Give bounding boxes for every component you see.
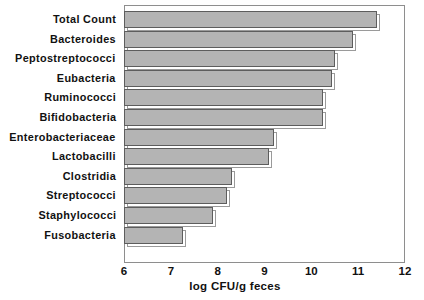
category-axis-labels: Total CountBacteroidesPeptostreptococciE…	[0, 0, 120, 262]
bar-body	[124, 31, 353, 48]
x-tick-label: 9	[261, 264, 267, 278]
bar-body	[124, 89, 323, 106]
category-label: Streptococci	[46, 189, 116, 201]
bar-body	[124, 168, 232, 185]
bar-body	[124, 187, 227, 204]
bar-body	[124, 227, 183, 244]
bar-body	[124, 11, 377, 28]
category-label: Lactobacilli	[52, 150, 116, 162]
bar-body	[124, 129, 274, 146]
category-label: Enterobacteriaceae	[10, 131, 116, 143]
x-axis-title: log CFU/g feces	[0, 280, 424, 292]
x-tick-label: 6	[121, 264, 127, 278]
x-tick-label: 8	[214, 264, 220, 278]
bar-body	[124, 50, 335, 67]
category-label: Staphylococci	[38, 209, 116, 221]
x-tick-label: 10	[305, 264, 318, 278]
x-tick-label: 12	[399, 264, 412, 278]
bar-chart: Total CountBacteroidesPeptostreptococciE…	[0, 0, 424, 300]
x-tick-label: 7	[168, 264, 174, 278]
category-label: Bacteroides	[50, 33, 116, 45]
bar-body	[124, 207, 213, 224]
bar-body	[124, 70, 332, 87]
category-label: Clostridia	[63, 170, 116, 182]
bar-body	[124, 148, 269, 165]
category-label: Bifidobacteria	[39, 111, 116, 123]
x-axis-title-text: log CFU/g feces	[189, 280, 280, 292]
x-tick-label: 11	[352, 264, 364, 278]
category-label: Eubacteria	[57, 72, 116, 84]
category-label: Fusobacteria	[44, 229, 116, 241]
x-axis-tick-labels: 6789101112	[0, 264, 424, 280]
category-label: Ruminococci	[44, 91, 116, 103]
category-label: Peptostreptococci	[16, 52, 116, 64]
bars-layer	[124, 5, 405, 263]
category-label: Total Count	[53, 13, 116, 25]
bar-body	[124, 109, 323, 126]
